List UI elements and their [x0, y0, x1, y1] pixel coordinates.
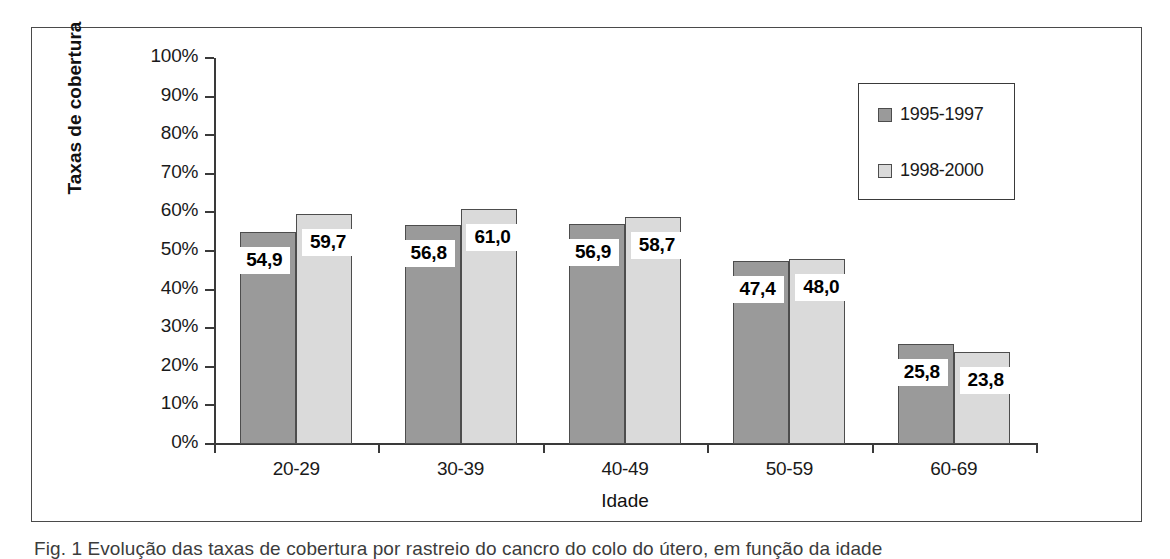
- x-axis-tick-label: 30-39: [378, 458, 542, 480]
- x-axis-tick-mark: [707, 443, 709, 453]
- y-axis-tick-label: 50%: [161, 238, 198, 260]
- bar-value-label: 47,4: [731, 276, 783, 303]
- x-axis-tick-mark: [1036, 443, 1038, 453]
- bar-value-label: 61,0: [466, 224, 518, 251]
- x-axis-tick-mark: [543, 443, 545, 453]
- y-axis-tick-mark: [205, 211, 214, 213]
- bar-value-label: 54,9: [238, 247, 290, 274]
- y-axis-tick-label: 90%: [161, 84, 198, 106]
- y-axis-tick-mark: [205, 96, 214, 98]
- bar-value-label: 23,8: [960, 367, 1012, 394]
- legend-entry-1998-2000: 1998-2000: [878, 160, 983, 181]
- y-axis-tick-mark: [205, 250, 214, 252]
- bar-value-label: 25,8: [896, 359, 948, 386]
- x-axis-tick-mark: [378, 443, 380, 453]
- bar-group: 56,958,7: [569, 58, 681, 444]
- y-axis-tick-mark: [205, 443, 214, 445]
- y-axis-tick-mark: [205, 404, 214, 406]
- bar-value-label: 59,7: [302, 229, 354, 256]
- y-axis-tick-label: 60%: [161, 199, 198, 221]
- y-axis-tick-mark: [205, 327, 214, 329]
- x-axis-title: Idade: [214, 490, 1036, 512]
- y-axis-tick-label: 70%: [161, 161, 198, 183]
- figure-caption-text: Fig. 1 Evolução das taxas de cobertura p…: [34, 541, 882, 559]
- y-axis-tick-label: 80%: [161, 122, 198, 144]
- legend-entry-1995-1997: 1995-1997: [878, 104, 983, 125]
- chart-legend: 1995-1997 1998-2000: [858, 83, 1015, 200]
- y-axis-tick-mark: [205, 173, 214, 175]
- bar-value-label: 56,9: [567, 239, 619, 266]
- bar-group: 47,448,0: [733, 58, 845, 444]
- y-axis-title: Taxas de cobertura: [64, 0, 86, 238]
- y-axis-tick-label: 30%: [161, 315, 198, 337]
- y-axis-tick-label: 20%: [161, 354, 198, 376]
- bar-group: 56,861,0: [405, 58, 517, 444]
- y-axis-tick-mark: [205, 366, 214, 368]
- x-axis-tick-label: 40-49: [543, 458, 707, 480]
- y-axis-tick-mark: [205, 134, 214, 136]
- legend-swatch-icon-series-b: [878, 164, 892, 178]
- y-axis-tick-label: 100%: [151, 45, 198, 67]
- bar-value-label: 56,8: [403, 240, 455, 267]
- figure-frame: Taxas de cobertura 100%90%80%70%60%50%40…: [31, 27, 1142, 522]
- x-axis-tick-label: 20-29: [214, 458, 378, 480]
- y-axis-tick-mark: [205, 289, 214, 291]
- legend-label-series-a: 1995-1997: [900, 104, 983, 125]
- figure-caption-clipped: Fig. 1 Evolução das taxas de cobertura p…: [0, 541, 1170, 559]
- y-axis-tick-mark: [205, 57, 214, 59]
- y-axis-tick-label: 40%: [161, 277, 198, 299]
- bar-value-label: 48,0: [795, 274, 847, 301]
- bar-1998-2000-60-69: [954, 352, 1010, 444]
- y-axis-tick-label: 10%: [161, 392, 198, 414]
- x-axis-tick-mark: [214, 443, 216, 453]
- legend-swatch-icon-series-a: [878, 108, 892, 122]
- bar-value-label: 58,7: [631, 232, 683, 259]
- bar-chart: Taxas de cobertura 100%90%80%70%60%50%40…: [1, 1, 1112, 496]
- legend-label-series-b: 1998-2000: [900, 160, 983, 181]
- x-axis-tick-label: 50-59: [707, 458, 871, 480]
- x-axis-tick-mark: [872, 443, 874, 453]
- bar-group: 54,959,7: [240, 58, 352, 444]
- x-axis-tick-label: 60-69: [872, 458, 1036, 480]
- y-axis-tick-label: 0%: [171, 431, 198, 453]
